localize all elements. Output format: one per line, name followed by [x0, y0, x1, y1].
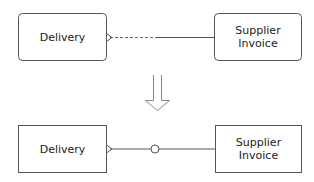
- entity-label-delivery-bottom: Delivery: [19, 126, 106, 172]
- entity-label-text: Delivery: [40, 31, 86, 44]
- entity-label-line-1: Supplier: [235, 24, 280, 37]
- entity-label-text: Delivery: [40, 143, 86, 156]
- entity-label-line-1: Supplier: [236, 136, 281, 149]
- entity-label-supplier-invoice-top: Supplier Invoice: [215, 14, 301, 60]
- relationship-connector-bottom: [107, 145, 216, 153]
- relationship-connector-top: [107, 34, 215, 42]
- entity-label-line-2: Invoice: [238, 37, 277, 50]
- down-arrow-icon: [146, 75, 170, 111]
- entity-label-supplier-invoice-bottom: Supplier Invoice: [216, 126, 301, 172]
- entity-label-delivery-top: Delivery: [19, 14, 106, 60]
- entity-label-line-2: Invoice: [239, 149, 278, 162]
- optional-circle-icon: [151, 145, 159, 153]
